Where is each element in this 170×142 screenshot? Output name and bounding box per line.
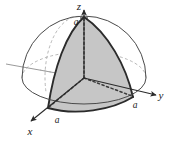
y-tick-label: a [133,100,138,110]
z-axis-label: z [76,0,82,12]
sphere-octant-figure: z y x a a a [0,0,170,142]
z-tick-label: a [74,17,79,27]
x-tick-label: a [55,115,60,125]
x-axis-label: x [27,125,33,137]
y-axis-label: y [158,89,164,101]
figure-canvas: z y x a a a [0,0,170,142]
